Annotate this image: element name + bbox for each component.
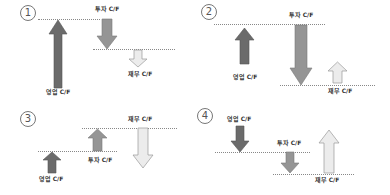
panel-3-financing-down-arrow-icon bbox=[133, 128, 153, 168]
panel-1-baseline-top bbox=[38, 19, 100, 20]
panel-4-investing-label: 투자 C/F bbox=[277, 140, 302, 146]
panel-3-investing-up-arrow-icon bbox=[88, 129, 107, 151]
panel-4-operating-label: 영업 C/F bbox=[227, 116, 252, 122]
panel-4-financing-label: 재무 C/F bbox=[315, 177, 340, 183]
panel-1-investing-label: 투자 C/F bbox=[95, 6, 120, 12]
panel-2-financing-up-arrow-icon bbox=[328, 62, 347, 83]
panel-3-operating-up-arrow-icon bbox=[43, 152, 61, 173]
panel-4-baseline-bottom bbox=[273, 174, 354, 175]
panel-1-operating-label: 영업 C/F bbox=[46, 89, 71, 95]
panel-3-number: 3 bbox=[20, 111, 36, 127]
panel-4-operating-down-arrow-icon bbox=[231, 126, 249, 152]
panel-2-operating-label: 영업 C/F bbox=[233, 74, 258, 80]
panel-1-operating-up-arrow-icon bbox=[49, 20, 67, 88]
panel-4-number: 4 bbox=[197, 108, 213, 124]
panel-3-operating-label: 영업 C/F bbox=[39, 176, 64, 182]
panel-1-number: 1 bbox=[20, 5, 36, 21]
panel-1-investing-down-arrow-icon bbox=[97, 19, 117, 49]
panel-2-number: 2 bbox=[201, 4, 217, 20]
panel-2-operating-up-arrow-icon bbox=[235, 28, 254, 64]
panel-2-financing-label: 재무 C/F bbox=[328, 88, 353, 94]
panel-4-investing-down-arrow-icon bbox=[281, 152, 299, 173]
panel-1-financing-down-arrow-icon bbox=[129, 50, 147, 67]
panel-2-baseline-bottom bbox=[280, 85, 375, 86]
panel-1-financing-label: 재무 C/F bbox=[128, 71, 153, 77]
panel-2-investing-down-arrow-icon bbox=[290, 25, 312, 85]
panel-4-financing-up-arrow-icon bbox=[319, 130, 339, 173]
panel-3-investing-label: 투자 C/F bbox=[88, 157, 113, 163]
panel-2-investing-label: 투자 C/F bbox=[289, 12, 314, 18]
panel-3-financing-label: 재무 C/F bbox=[128, 116, 153, 122]
